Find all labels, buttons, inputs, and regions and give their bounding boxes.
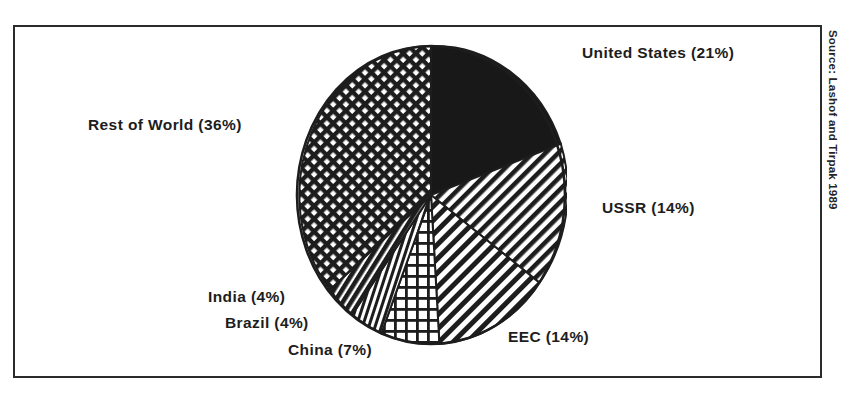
pie-chart-svg	[295, 44, 567, 346]
pie-label-eec: EEC (14%)	[508, 328, 589, 345]
figure-root: United States (21%) Rest of World (36%) …	[0, 0, 854, 404]
pie-label-rest-of-world: Rest of World (36%)	[88, 116, 242, 133]
pie-label-united-states: United States (21%)	[582, 44, 734, 61]
pie-label-china: China (7%)	[288, 341, 372, 358]
source-credit: Source: Lashof and Tirpak 1989	[827, 30, 839, 236]
pie-label-ussr: USSR (14%)	[602, 199, 695, 216]
pie-label-india: India (4%)	[208, 288, 285, 305]
pie-chart	[295, 44, 567, 346]
pie-label-brazil: Brazil (4%)	[225, 314, 309, 331]
